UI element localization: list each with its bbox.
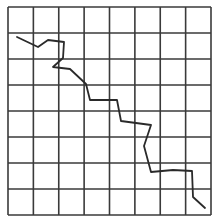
grid-lines [8,7,211,215]
jagged-path-line [17,37,205,208]
grid-diagram [0,0,217,223]
